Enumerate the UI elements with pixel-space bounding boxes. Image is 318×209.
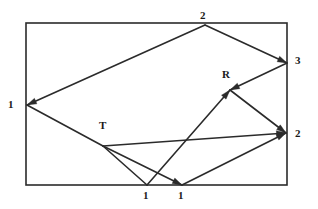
edge-n_bottom_1b-to-n_right_2 [182, 133, 286, 185]
figure-canvas: 123RT211 [0, 0, 318, 209]
edge-n_top_2-to-n_right_3 [205, 25, 287, 63]
edge-layer [27, 25, 287, 185]
node-label-n_R: R [222, 69, 230, 80]
arrowhead-e2 [277, 56, 287, 63]
arrowhead-e1 [27, 98, 37, 105]
arrowhead-e5 [230, 83, 240, 90]
edge-n_top_2-to-n_left_1 [27, 25, 205, 105]
edge-n_R-to-n_right_2 [230, 90, 286, 133]
edge-n_T-to-n_right_2 [103, 133, 286, 146]
node-label-n_top_2: 2 [200, 10, 206, 21]
edge-n_T-to-n_bottom_1b [103, 146, 182, 185]
node-label-n_left_1: 1 [8, 99, 14, 110]
node-label-n_bottom_1b: 1 [178, 190, 184, 201]
edge-n_T-to-n_bottom_1a [103, 146, 147, 185]
edge-n_left_1-to-n_T [27, 105, 103, 146]
node-label-n_bottom_1a: 1 [143, 190, 149, 201]
node-label-n_right_2: 2 [295, 128, 301, 139]
node-label-n_T: T [99, 120, 106, 131]
arrowhead-e7 [172, 178, 182, 185]
graph-drawing [0, 0, 318, 209]
node-label-n_right_3: 3 [295, 55, 301, 66]
